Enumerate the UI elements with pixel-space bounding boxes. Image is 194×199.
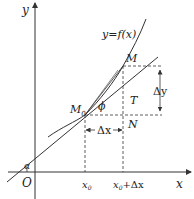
- angle-phi-label: ϕ: [98, 100, 106, 113]
- y-axis-label: y: [21, 3, 29, 17]
- point-m0-label: M0: [69, 103, 86, 118]
- point-t-label: T: [130, 94, 139, 107]
- derivative-diagram: y x O y=f(x) M M0 N T ϕ α Δx Δy x0 x0+Δx: [0, 0, 194, 199]
- x0dx-tick-label: x0+Δx: [113, 179, 144, 191]
- delta-x-label: Δx: [97, 124, 112, 137]
- angle-alpha-label: α: [24, 161, 30, 171]
- delta-y-label: Δy: [153, 85, 168, 98]
- x0-tick-label: x0: [82, 179, 92, 191]
- x-axis-label: x: [176, 177, 183, 191]
- point-m-label: M: [125, 52, 138, 65]
- origin-label: O: [22, 176, 32, 190]
- curve-label: y=f(x): [101, 28, 136, 41]
- point-n-label: N: [127, 118, 138, 131]
